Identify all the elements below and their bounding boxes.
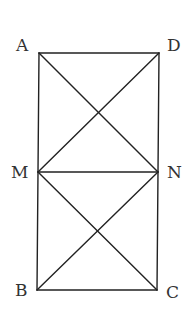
geometry-diagram: A D M N B C (0, 0, 195, 313)
point-label-N: N (167, 164, 182, 181)
diagram-lines (0, 0, 195, 313)
point-label-D: D (167, 37, 181, 54)
point-label-M: M (11, 164, 28, 181)
point-label-A: A (16, 37, 28, 54)
point-label-B: B (15, 282, 28, 299)
point-label-C: C (166, 284, 179, 301)
